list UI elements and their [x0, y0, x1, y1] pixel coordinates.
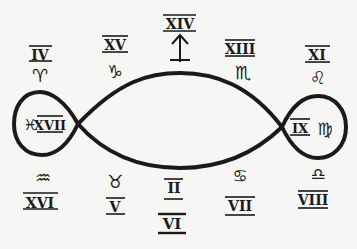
aquarius-icon: ♒ [35, 167, 51, 188]
top-label-xiii: XIII ♏ [225, 40, 256, 83]
virgo-icon: ♍ [317, 119, 332, 139]
libra-icon: ♎ [310, 164, 325, 184]
bottom-label-v: ♉ V [106, 171, 125, 215]
svg-text:XV: XV [104, 37, 127, 53]
top-label-xi: XI ♌ [305, 46, 330, 88]
top-label-iv: IV ♈ [29, 46, 52, 86]
taurus-icon: ♉ [107, 171, 123, 192]
capricorn-icon: ♑ [107, 61, 123, 82]
top-label-xiv: XIV [163, 15, 196, 62]
bottom-label-xvi: ♒ XVI [23, 167, 58, 211]
bottom-label-ii-vi: II VI [158, 179, 186, 233]
scorpio-icon: ♏ [235, 62, 251, 83]
svg-text:VIII: VIII [297, 192, 329, 208]
bottom-label-viii: ♎ VIII [297, 164, 329, 208]
svg-text:VI: VI [162, 215, 182, 233]
lemniscate-diagram: IV ♈ XV ♑ XIV XIII ♏ XI ♌ ♓ XVII IX [0, 0, 357, 249]
diagram-canvas: IV ♈ XV ♑ XIV XIII ♏ XI ♌ ♓ XVII IX [0, 0, 357, 249]
svg-text:V: V [109, 199, 122, 215]
bottom-label-vii: ♋ VII [225, 166, 255, 215]
svg-text:XIV: XIV [166, 16, 195, 32]
svg-text:XVII: XVII [34, 118, 66, 133]
svg-text:XI: XI [308, 47, 325, 63]
svg-text:II: II [167, 180, 180, 196]
left-loop-label: ♓ XVII [23, 116, 66, 134]
aries-icon: ♈ [32, 65, 48, 86]
leo-icon: ♌ [310, 67, 326, 88]
svg-text:XIII: XIII [225, 41, 256, 57]
top-label-xv: XV ♑ [102, 36, 128, 82]
right-loop-label: IX ♍ [290, 119, 333, 139]
svg-text:VII: VII [227, 198, 252, 214]
central-lens-lower [78, 124, 282, 168]
cancer-icon: ♋ [232, 166, 247, 186]
svg-text:IX: IX [292, 121, 309, 136]
